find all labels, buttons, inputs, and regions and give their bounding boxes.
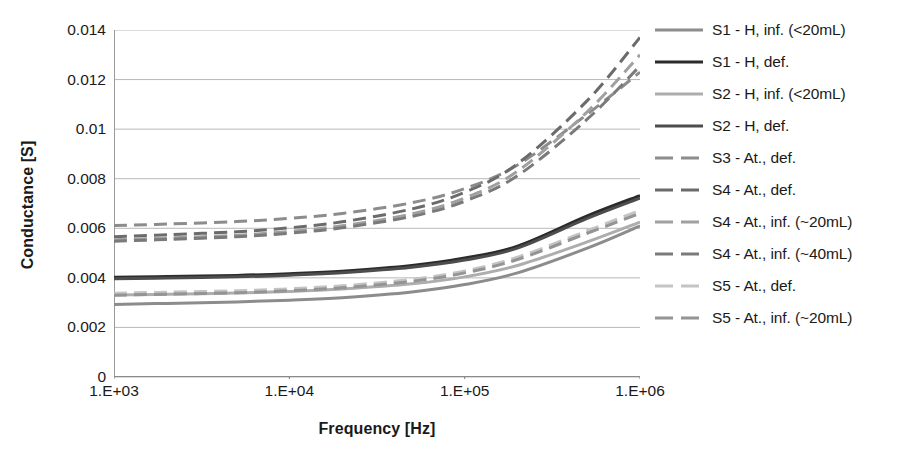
legend-label: S4 - At., def. [712,181,796,199]
legend-line-swatch-icon [655,184,703,196]
legend-item[interactable]: S2 - H, def. [655,110,923,142]
y-tick-label: 0.014 [36,21,106,39]
plot-area [114,30,640,377]
legend-item[interactable]: S3 - At., def. [655,142,923,174]
legend-line-swatch-icon [655,56,703,68]
legend-label: S1 - H, def. [712,53,789,71]
legend-item[interactable]: S4 - At., inf. (~20mL) [655,206,923,238]
y-tick-label: 0.006 [36,219,106,237]
legend-item[interactable]: S5 - At., def. [655,270,923,302]
x-tick-label: 1.E+05 [440,382,490,400]
legend-line-swatch-icon [655,24,703,36]
x-tick-label: 1.E+03 [89,382,139,400]
legend-item[interactable]: S4 - At., def. [655,174,923,206]
legend-line-swatch-icon [655,312,703,324]
legend-label: S5 - At., inf. (~20mL) [712,309,852,327]
y-tick-label: 0.01 [36,120,106,138]
legend-line-swatch-icon [655,248,703,260]
legend-label: S4 - At., inf. (~20mL) [712,213,852,231]
legend-item[interactable]: S2 - H, inf. (<20mL) [655,78,923,110]
series-line [114,55,640,240]
plot-svg [114,30,640,379]
legend-label: S5 - At., def. [712,277,796,295]
y-tick-label: 0.008 [36,170,106,188]
y-tick-label: 0.002 [36,318,106,336]
y-tick-label: 0.004 [36,269,106,287]
series-line [114,72,640,225]
x-tick-label: 1.E+04 [265,382,315,400]
legend-item[interactable]: S1 - H, def. [655,46,923,78]
legend-line-swatch-icon [655,216,703,228]
x-axis-title: Frequency [Hz] [114,420,640,438]
legend-item[interactable]: S1 - H, inf. (<20mL) [655,14,923,46]
legend-item[interactable]: S4 - At., inf. (~40mL) [655,238,923,270]
legend-label: S2 - H, inf. (<20mL) [712,85,846,103]
legend-line-swatch-icon [655,152,703,164]
legend-line-swatch-icon [655,120,703,132]
legend-label: S2 - H, def. [712,117,789,135]
legend-line-swatch-icon [655,280,703,292]
legend-line-swatch-icon [655,88,703,100]
x-tick-label: 1.E+06 [615,382,665,400]
legend-label: S1 - H, inf. (<20mL) [712,21,846,39]
legend-item[interactable]: S5 - At., inf. (~20mL) [655,302,923,334]
y-tick-label: 0.012 [36,71,106,89]
legend-label: S4 - At., inf. (~40mL) [712,245,852,263]
y-axis-tick-labels: 00.0020.0040.0060.0080.010.0120.014 [32,0,106,472]
chart-legend: S1 - H, inf. (<20mL)S1 - H, def.S2 - H, … [655,14,923,334]
conductance-frequency-chart: Conductance [S] 00.0020.0040.0060.0080.0… [0,0,923,472]
legend-label: S3 - At., def. [712,149,796,167]
